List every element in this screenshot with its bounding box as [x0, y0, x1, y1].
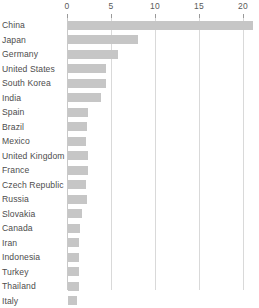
category-label: Italy: [0, 294, 64, 308]
bar: [68, 79, 106, 88]
chart-row: Indonesia: [0, 250, 259, 265]
bar: [68, 35, 138, 44]
chart-row: Russia: [0, 192, 259, 207]
bar: [68, 253, 79, 262]
chart-row: Thailand: [0, 279, 259, 294]
category-label: Slovakia: [0, 207, 64, 222]
bar: [68, 238, 79, 247]
x-axis-tick-labels: 05101520: [0, 0, 259, 18]
bar: [68, 122, 87, 131]
chart-row: Mexico: [0, 134, 259, 149]
x-tick-label-0: 0: [65, 1, 70, 11]
category-label: United Kingdom: [0, 149, 64, 164]
bar: [68, 166, 88, 175]
bar: [68, 108, 88, 117]
chart-rows: ChinaJapanGermanyUnited StatesSouth Kore…: [0, 18, 259, 290]
chart-row: South Korea: [0, 76, 259, 91]
chart-row: Italy: [0, 294, 259, 308]
bar: [68, 64, 106, 73]
bar: [68, 21, 253, 30]
chart-row: Brazil: [0, 120, 259, 135]
chart-row: Turkey: [0, 265, 259, 280]
category-label: Thailand: [0, 279, 64, 294]
category-label: Canada: [0, 221, 64, 236]
chart-row: India: [0, 91, 259, 106]
category-label: Spain: [0, 105, 64, 120]
x-tick-label-5: 5: [109, 1, 114, 11]
chart-row: United States: [0, 62, 259, 77]
chart-row: Spain: [0, 105, 259, 120]
x-tick-label-15: 15: [194, 1, 204, 11]
x-tick-label-10: 10: [150, 1, 160, 11]
bar: [68, 180, 86, 189]
bar: [68, 50, 118, 59]
category-label: South Korea: [0, 76, 64, 91]
category-label: United States: [0, 62, 64, 77]
x-tick-label-20: 20: [238, 1, 248, 11]
bar: [68, 93, 101, 102]
category-label: Iran: [0, 236, 64, 251]
chart-row: France: [0, 163, 259, 178]
bar: [68, 209, 82, 218]
chart-row: Czech Republic: [0, 178, 259, 193]
category-label: Germany: [0, 47, 64, 62]
category-label: Turkey: [0, 265, 64, 280]
category-label: Mexico: [0, 134, 64, 149]
bar: [68, 282, 79, 291]
bar: [68, 151, 88, 160]
chart-row: Iran: [0, 236, 259, 251]
category-label: Japan: [0, 33, 64, 48]
bar: [68, 224, 80, 233]
chart-row: Japan: [0, 33, 259, 48]
category-label: China: [0, 18, 64, 33]
category-label: India: [0, 91, 64, 106]
category-label: Czech Republic: [0, 178, 64, 193]
bar: [68, 296, 77, 305]
category-label: Russia: [0, 192, 64, 207]
chart-row: Germany: [0, 47, 259, 62]
chart-row: Canada: [0, 221, 259, 236]
chart-row: United Kingdom: [0, 149, 259, 164]
chart-row: China: [0, 18, 259, 33]
category-label: Brazil: [0, 120, 64, 135]
bar: [68, 267, 79, 276]
category-label: France: [0, 163, 64, 178]
category-label: Indonesia: [0, 250, 64, 265]
bar: [68, 195, 87, 204]
chart-row: Slovakia: [0, 207, 259, 222]
bar: [68, 137, 86, 146]
